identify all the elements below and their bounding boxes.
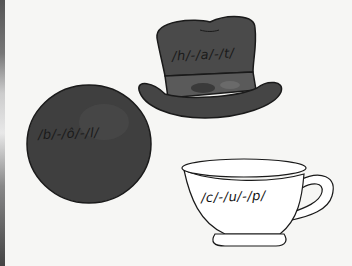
hat-picture xyxy=(135,10,285,120)
cup-sound-label: /c/-/u/-/p/ xyxy=(201,188,266,205)
ball-picture xyxy=(24,82,154,207)
hat-icon xyxy=(135,10,285,120)
page-edge-strip xyxy=(0,0,5,266)
ball-sound-label: /b/-/ô/-/l/ xyxy=(38,125,99,142)
ball-icon xyxy=(24,82,154,207)
